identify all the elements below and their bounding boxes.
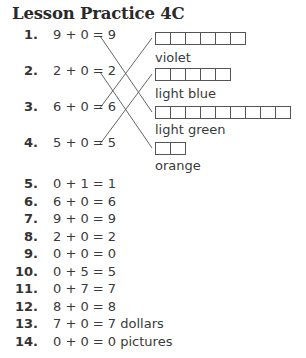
item-equation: 5 + 0 = 5 — [53, 135, 116, 151]
box-group-9 — [155, 106, 290, 118]
item-equation: 2 + 0 = 2 — [53, 63, 116, 79]
problem-number: 11. — [0, 281, 38, 297]
problem-equation: 6 + 0 = 6 — [53, 194, 116, 210]
problem-equation: 8 + 0 = 8 — [53, 299, 116, 315]
problem-equation: 0 + 7 = 7 — [53, 281, 116, 297]
problem-equation: 0 + 0 = 0 pictures — [53, 334, 172, 350]
item-number: 3. — [0, 99, 38, 115]
item-number: 1. — [0, 27, 38, 43]
problem-number: 7. — [0, 211, 38, 227]
problem-number: 12. — [0, 299, 38, 315]
color-label-light-blue: light blue — [155, 86, 216, 101]
item-number: 2. — [0, 63, 38, 79]
color-label-violet: violet — [155, 50, 191, 65]
box-group-5 — [155, 68, 230, 80]
item-equation: 9 + 0 = 9 — [53, 27, 116, 43]
problem-equation: 7 + 0 = 7 dollars — [53, 316, 164, 332]
problem-number: 14. — [0, 334, 38, 350]
item-number: 4. — [0, 135, 38, 151]
problem-equation: 9 + 0 = 9 — [53, 211, 116, 227]
color-label-orange: orange — [155, 158, 201, 173]
problem-number: 5. — [0, 176, 38, 192]
problem-number: 8. — [0, 229, 38, 245]
box-group-6 — [155, 32, 245, 44]
problem-number: 6. — [0, 194, 38, 210]
problem-equation: 0 + 0 = 0 — [53, 246, 116, 262]
problem-equation: 0 + 5 = 5 — [53, 264, 116, 280]
problem-equation: 0 + 1 = 1 — [53, 176, 116, 192]
color-label-light-green: light green — [155, 122, 226, 137]
box-group-2 — [155, 142, 185, 154]
item-equation: 6 + 0 = 6 — [53, 99, 116, 115]
problem-number: 13. — [0, 316, 38, 332]
problem-number: 10. — [0, 264, 38, 280]
matching-lines — [0, 0, 306, 358]
problem-number: 9. — [0, 246, 38, 262]
problem-equation: 2 + 0 = 2 — [53, 229, 116, 245]
